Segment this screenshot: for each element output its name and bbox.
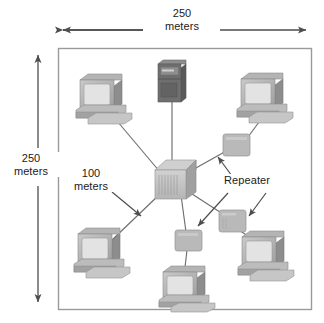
pc-top-right[interactable] bbox=[237, 73, 293, 123]
pc-bottom-center[interactable] bbox=[159, 266, 215, 312]
segment-length-label: 100 meters bbox=[60, 167, 122, 192]
width-dimension-label: 250 meters bbox=[144, 7, 220, 32]
repeater-bottom-right[interactable] bbox=[219, 210, 246, 232]
hub-center[interactable] bbox=[155, 160, 196, 199]
height-unit: meters bbox=[14, 165, 48, 177]
arrow-100-meters bbox=[112, 192, 141, 216]
arrow-repeater-to-bottom-right bbox=[249, 193, 266, 216]
segment-length-unit: meters bbox=[74, 180, 108, 192]
repeater-right[interactable] bbox=[223, 134, 250, 156]
pc-bottom-right[interactable] bbox=[238, 231, 294, 281]
repeater-callout-label: Repeater bbox=[224, 174, 298, 187]
repeater-bottom-center[interactable] bbox=[175, 230, 202, 251]
network-diagram-canvas: 250 meters 250 meters 100 meters Repeate… bbox=[0, 0, 324, 323]
link-hub-to-repeater-bottom-center bbox=[181, 195, 186, 232]
width-value: 250 bbox=[173, 7, 192, 19]
height-dimension-label: 250 meters bbox=[2, 152, 60, 177]
segment-length-value: 100 bbox=[82, 167, 101, 179]
width-unit: meters bbox=[165, 20, 199, 32]
pc-top-left[interactable] bbox=[76, 74, 132, 124]
pc-bottom-left[interactable] bbox=[74, 228, 130, 278]
height-value: 250 bbox=[22, 152, 41, 164]
server-top[interactable] bbox=[158, 60, 186, 102]
